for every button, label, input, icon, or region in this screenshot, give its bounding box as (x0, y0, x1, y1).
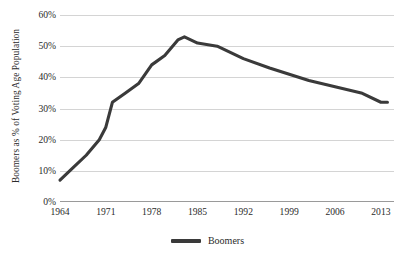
x-axis-tick-label: 1978 (132, 205, 172, 219)
x-axis-tick-label: 1971 (86, 205, 126, 219)
x-axis-tick-label: 1992 (223, 205, 263, 219)
y-axis-tick-label: 60% (22, 10, 56, 20)
y-axis-tick-label: 30% (22, 104, 56, 114)
y-axis-tick-label: 20% (22, 135, 56, 145)
y-axis-title: Boomers as % of Voting Age Population (9, 1, 23, 211)
x-axis-tick-label: 2006 (315, 205, 355, 219)
plot-area (60, 15, 394, 202)
y-axis-tick-label: 50% (22, 41, 56, 51)
x-axis-tick-label: 2013 (361, 205, 401, 219)
x-axis-tick-label: 1964 (40, 205, 80, 219)
series-boomers-line (60, 37, 387, 180)
series-boomers (60, 15, 394, 202)
chart-legend: Boomers (0, 232, 415, 250)
legend-label: Boomers (208, 235, 244, 247)
x-axis-tick-labels: 19641971197819851992199920062013 (60, 205, 394, 221)
x-axis-tick-label: 1985 (178, 205, 218, 219)
y-axis-tick-label: 10% (22, 166, 56, 176)
y-axis-tick-label: 40% (22, 72, 56, 82)
line-chart: Boomers as % of Voting Age Population 60… (0, 0, 415, 256)
x-axis-tick-label: 1999 (269, 205, 309, 219)
legend-line-swatch (171, 239, 201, 242)
